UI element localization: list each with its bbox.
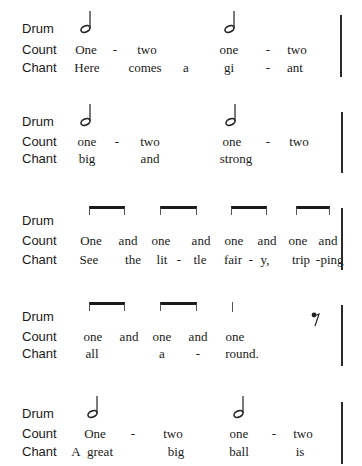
count-word: - — [131, 426, 135, 442]
bar-line — [340, 15, 342, 77]
eighth-pair-icon — [160, 302, 197, 311]
count-word: and — [120, 329, 139, 345]
count-word: One — [84, 426, 106, 442]
chant-word: Here — [74, 60, 99, 76]
count-word: - — [266, 42, 270, 58]
drum-label: Drum — [22, 114, 54, 129]
chant-word: fair — [224, 252, 242, 268]
chant-word: - — [177, 252, 181, 268]
count-word: one — [84, 329, 103, 345]
count-label: Count — [22, 426, 57, 441]
chant-word: - — [266, 60, 270, 76]
count-word: and — [258, 233, 277, 249]
chant-word: y, — [261, 252, 270, 268]
eighth-pair-icon — [89, 206, 125, 215]
count-word: two — [289, 134, 309, 150]
half-note-icon — [223, 103, 239, 127]
count-word: One — [80, 233, 102, 249]
chant-word: trip — [292, 252, 310, 268]
chant-word: See — [80, 252, 99, 268]
chant-label: Chant — [22, 346, 57, 361]
count-word: - — [115, 134, 119, 150]
count-label: Count — [22, 329, 57, 344]
chant-label: Chant — [22, 252, 57, 267]
count-word: One — [75, 42, 97, 58]
half-note-icon — [78, 103, 94, 127]
eighth-pair-icon — [160, 206, 197, 215]
drum-label: Drum — [22, 21, 54, 36]
half-note-icon — [85, 395, 101, 419]
bar-line — [341, 305, 343, 366]
bar-line — [341, 208, 343, 270]
half-note-icon — [78, 10, 94, 34]
half-note-icon — [231, 395, 247, 419]
chant-word: and — [141, 151, 160, 167]
bar-line — [341, 112, 343, 173]
drum-label: Drum — [22, 309, 54, 324]
count-label: Count — [22, 42, 57, 57]
half-note-icon — [222, 10, 238, 34]
bar-line — [341, 402, 343, 464]
chant-word: ball — [229, 444, 249, 460]
count-word: one — [226, 329, 245, 345]
chant-word: great — [87, 444, 113, 460]
count-word: one — [225, 233, 244, 249]
chant-word: tle — [194, 252, 207, 268]
count-word: two — [163, 426, 183, 442]
drum-label: Drum — [22, 406, 54, 421]
count-word: one — [153, 329, 172, 345]
count-word: - — [266, 134, 270, 150]
chant-word: round. — [225, 346, 259, 362]
chant-word: - — [196, 346, 200, 362]
chant-word: a — [183, 60, 189, 76]
count-word: one — [220, 42, 239, 58]
eighth-pair-icon — [296, 206, 330, 215]
count-label: Count — [22, 233, 57, 248]
eighth-pair-icon — [231, 206, 267, 215]
chant-word: - — [249, 252, 253, 268]
chant-label: Chant — [22, 151, 57, 166]
drum-label: Drum — [22, 213, 54, 228]
quarter-stem-icon — [232, 302, 233, 312]
count-word: - — [272, 426, 276, 442]
count-word: two — [137, 42, 157, 58]
chant-word: comes — [128, 60, 161, 76]
count-word: two — [293, 426, 313, 442]
chant-word: strong — [220, 151, 253, 167]
chant-word: ant — [287, 60, 303, 76]
eighth-pair-icon — [89, 302, 125, 311]
count-word: two — [287, 42, 307, 58]
chant-word: A — [71, 444, 80, 460]
count-word: and — [319, 233, 338, 249]
chant-word: the — [125, 252, 141, 268]
chant-label: Chant — [22, 444, 57, 459]
chant-word: lit — [157, 252, 168, 268]
count-word: one — [223, 134, 242, 150]
count-word: one — [78, 134, 97, 150]
count-word: - — [113, 42, 117, 58]
count-word: and — [119, 233, 138, 249]
count-word: two — [140, 134, 160, 150]
chant-word: gi — [224, 60, 234, 76]
chant-word: big — [168, 444, 185, 460]
chant-word: a — [159, 346, 165, 362]
count-word: one — [289, 233, 308, 249]
count-word: one — [230, 426, 249, 442]
count-word: and — [192, 233, 211, 249]
chant-label: Chant — [22, 60, 57, 75]
count-word: one — [152, 233, 171, 249]
count-word: and — [189, 329, 208, 345]
chant-word: all — [86, 346, 99, 362]
chant-word: is — [296, 444, 305, 460]
eighth-rest-icon — [310, 311, 322, 327]
chant-word: big — [79, 151, 96, 167]
count-label: Count — [22, 134, 57, 149]
